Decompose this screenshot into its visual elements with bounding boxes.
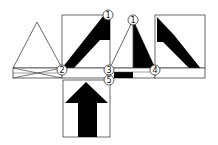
circle-label-1a: 1 bbox=[103, 10, 113, 20]
svg-text:1: 1 bbox=[105, 11, 110, 20]
svg-text:1: 1 bbox=[130, 16, 135, 25]
left-triangle bbox=[13, 22, 62, 68]
svg-text:2: 2 bbox=[59, 66, 64, 75]
svg-text:3: 3 bbox=[106, 66, 111, 75]
circle-label-4: 4 bbox=[150, 65, 160, 75]
center-strip bbox=[62, 68, 110, 78]
svg-text:5: 5 bbox=[106, 76, 111, 85]
circle-label-5: 5 bbox=[104, 75, 114, 85]
circle-label-3: 3 bbox=[104, 65, 114, 75]
folding-net-diagram: 1 1 2 3 4 5 bbox=[0, 0, 218, 145]
svg-text:4: 4 bbox=[152, 66, 157, 75]
circle-label-2: 2 bbox=[57, 65, 67, 75]
circle-label-1b: 1 bbox=[128, 15, 138, 25]
middle-strip-black bbox=[114, 72, 133, 78]
right-strip bbox=[155, 68, 205, 78]
